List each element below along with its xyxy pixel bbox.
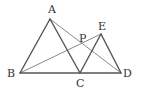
segment-ad — [50, 19, 121, 73]
point-labels: A B C D E P — [7, 3, 132, 90]
label-c: C — [76, 77, 84, 90]
geometry-diagram: A B C D E P — [0, 0, 141, 90]
segment-be — [20, 34, 101, 73]
segment-ed — [101, 34, 121, 73]
label-b: B — [7, 67, 15, 80]
segment-ab — [20, 19, 50, 73]
label-e: E — [98, 20, 106, 33]
label-d: D — [123, 67, 132, 80]
label-p: P — [79, 32, 87, 45]
label-a: A — [47, 3, 57, 16]
